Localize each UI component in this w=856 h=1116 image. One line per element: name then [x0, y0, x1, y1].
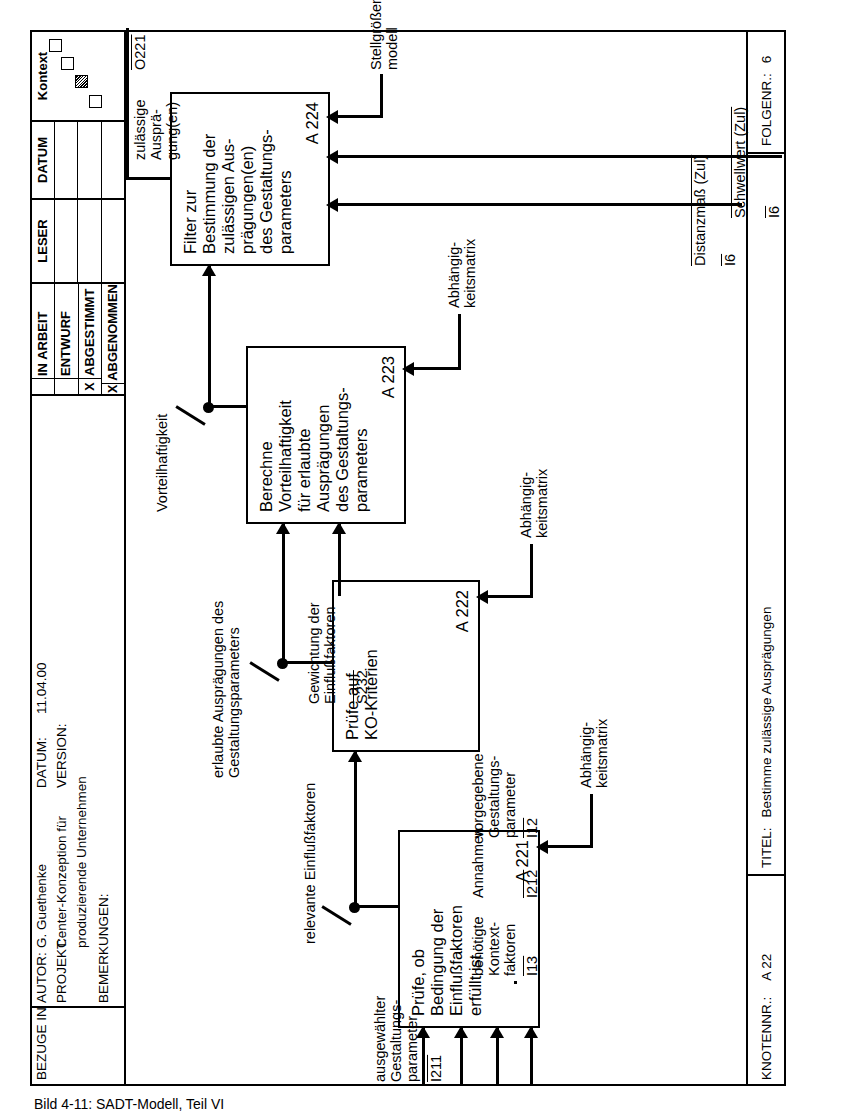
- flow-code-s232: S232: [354, 670, 370, 704]
- sheet-header: BEZUGE IN AUTOR: G. Guethenke DATUM: 11.…: [32, 32, 126, 1084]
- input-line-distanzmass: [330, 204, 742, 207]
- folgenr-value: 6: [759, 56, 774, 64]
- status-grid: IN ARBEITENTWURFXABGESTIMMTXABGENOMMEN: [32, 284, 124, 394]
- kontext-node-icon: [89, 95, 102, 108]
- input-code-i12: I12: [524, 818, 540, 838]
- control-line-a223: [406, 368, 460, 371]
- diagram-canvas: Prüfe, obBedingung derEinflußfaktorenerf…: [126, 32, 746, 1084]
- output-line-o221-v: [126, 178, 172, 181]
- activity-box-a224[interactable]: Filter zurBestimmung derzulässigen Aus-p…: [170, 92, 330, 266]
- bemerkungen-label: BEMERKUNGEN:: [96, 893, 111, 1003]
- autor-label: AUTOR:: [34, 952, 49, 1003]
- flow-line-a221-up: [354, 906, 400, 909]
- input-label-i211: ausgewählterGestaltungs-parameter: [372, 996, 420, 1082]
- status-checkmark[interactable]: [32, 378, 54, 394]
- datum-label: DATUM:: [34, 737, 49, 788]
- header-datum-cell: DATUM: [32, 120, 124, 198]
- control-label-abhaengigkeitsmatrix-a222: Abhängig-keitsmatrix: [518, 469, 550, 538]
- titel-label: TITEL:: [759, 827, 774, 868]
- control-line-a224-h: [380, 74, 383, 118]
- status-row[interactable]: IN ARBEIT: [32, 284, 55, 394]
- output-line-o221-h: [126, 28, 129, 180]
- activity-box-a222-id: A 222: [453, 590, 472, 632]
- control-label-stellgroessenmodell: Stellgrößen-modell: [368, 0, 400, 70]
- input-arrowhead-i12: [524, 1026, 538, 1038]
- projekt-value-line2: produzierende Unternehmen: [74, 776, 89, 948]
- autor-value: G. Guethenke: [34, 864, 49, 948]
- input-label-i212: Annahmen: [470, 828, 486, 898]
- datum-column-label: DATUM: [32, 122, 55, 198]
- activity-box-a223-text: BerechneVorteilhaftigkeitfür erlaubteAus…: [257, 356, 371, 512]
- flow-label-relevante-einflussfaktoren: relevante Einflußfaktoren: [302, 783, 318, 944]
- activity-box-a224-id: A 224: [303, 102, 322, 144]
- input-code-distanzmass: I6: [722, 254, 738, 266]
- input-label-distanzmass: Distanzmaß (Zul): [692, 155, 708, 266]
- flow-arrowhead-a224-in: [202, 264, 216, 276]
- control-arrowhead-a221: [536, 840, 548, 854]
- projekt-label: PROJEKT:: [54, 938, 69, 1003]
- status-row[interactable]: XABGESTIMMT: [79, 284, 102, 394]
- input-arrowhead-i13: [454, 1026, 468, 1038]
- status-row[interactable]: XABGENOMMEN: [102, 284, 124, 394]
- input-arrowhead-i212: [490, 1026, 504, 1038]
- flow-leader-relevante: [321, 906, 351, 926]
- input-arrowhead-schwellwert: [326, 150, 338, 164]
- status-label: ABGENOMMEN: [102, 284, 124, 383]
- activity-box-a224-text: Filter zurBestimmung derzulässigen Aus-p…: [181, 102, 295, 254]
- flow-leader-erlaubte: [249, 662, 279, 682]
- activity-box-a222[interactable]: Prüfe aufKO-Kriterien A 222: [332, 580, 480, 752]
- flow-arrowhead-a223-in: [276, 522, 290, 534]
- bezuge-label: BEZUGE IN: [32, 1003, 51, 1084]
- kontext-minimap: [55, 32, 124, 120]
- kontext-current-node-icon: [75, 75, 88, 88]
- control-arrowhead-a224: [326, 110, 338, 124]
- control-label-abhaengigkeitsmatrix-a221: Abhängig-keitsmatrix: [578, 719, 610, 788]
- status-checkmark[interactable]: [55, 378, 77, 394]
- control-arrowhead-a223: [402, 362, 414, 376]
- header-main-cell: AUTOR: G. Guethenke DATUM: 11.04.00 PROJ…: [32, 394, 124, 1006]
- header-kontext-cell: Kontext: [32, 32, 124, 120]
- flow-label-erlaubte-auspraegungen: erlaubte Ausprägungen desGestaltungspara…: [210, 601, 242, 778]
- flow-junction-dot-1: [349, 902, 360, 913]
- activity-box-a223[interactable]: BerechneVorteilhaftigkeitfür erlaubteAus…: [246, 346, 406, 524]
- header-status-cell: IN ARBEITENTWURFXABGESTIMMTXABGENOMMEN: [32, 282, 124, 394]
- status-checkmark[interactable]: X: [102, 383, 124, 394]
- status-label: ABGESTIMMT: [79, 284, 101, 378]
- flow-leader-vorteilhaftigkeit: [175, 406, 205, 426]
- control-arrowhead-a222: [476, 590, 488, 604]
- flow-label-vorteilhaftigkeit: Vorteilhaftigkeit: [154, 414, 170, 512]
- control-line-a221-h: [590, 794, 593, 848]
- flow-line-a221-to-a222: [354, 750, 357, 908]
- status-label: ENTWURF: [55, 284, 77, 378]
- status-label: IN ARBEIT: [32, 284, 54, 378]
- input-code-i211: I211: [428, 1055, 444, 1082]
- input-line-schwellwert: [330, 156, 782, 159]
- input-arrowhead-distanzmass: [326, 198, 338, 212]
- control-line-a223-h: [458, 314, 461, 370]
- spacer: [514, 982, 517, 985]
- flow-junction-dot-3: [203, 402, 214, 413]
- input-code-i13: I13: [524, 956, 540, 976]
- flow-label-gewichtung: Gewichtung derEinflußfaktoren: [306, 602, 338, 704]
- flow-arrowhead-gewichtung: [332, 522, 346, 534]
- sadt-sheet-rotator: BEZUGE IN AUTOR: G. Guethenke DATUM: 11.…: [30, 30, 786, 1086]
- kontext-node-icon: [49, 39, 62, 52]
- footer-folgenr-cell: FOLGENR.: 6: [748, 32, 784, 152]
- leser-label: LESER: [32, 200, 55, 282]
- control-line-a222-h: [530, 544, 533, 598]
- figure-caption: Bild 4-11: SADT-Modell, Teil VI: [34, 1096, 224, 1112]
- sadt-sheet: BEZUGE IN AUTOR: G. Guethenke DATUM: 11.…: [30, 30, 786, 1086]
- knotennr-value: A 22: [759, 954, 774, 981]
- flow-junction-dot-2: [277, 658, 288, 669]
- sheet-footer: KNOTENNR.: A 22 TITEL: Bestimme zulässig…: [746, 32, 784, 1084]
- header-bezuge-cell: BEZUGE IN: [32, 1006, 124, 1084]
- knotennr-label: KNOTENNR.:: [759, 997, 774, 1080]
- folgenr-label: FOLGENR.:: [759, 73, 774, 146]
- activity-box-a223-id: A 223: [379, 356, 398, 398]
- input-label-i12: vorgegebeneGestaltungs-parameter: [470, 753, 518, 838]
- header-leser-cell: LESER: [32, 198, 124, 282]
- status-row[interactable]: ENTWURF: [55, 284, 78, 394]
- flow-line-a223-up: [208, 406, 248, 409]
- status-checkmark[interactable]: X: [79, 378, 101, 394]
- input-label-i13: benötigteKontext-faktoren: [470, 916, 518, 976]
